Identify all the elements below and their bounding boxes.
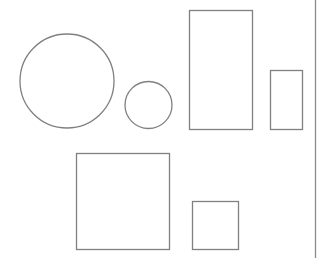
drawing-canvas	[0, 0, 322, 263]
tall-rectangle	[190, 11, 253, 130]
large-square	[77, 154, 170, 250]
small-square	[193, 202, 239, 250]
small-rectangle	[271, 71, 303, 130]
small-circle	[125, 82, 172, 129]
shapes-diagram	[0, 0, 322, 263]
large-circle	[20, 34, 114, 128]
